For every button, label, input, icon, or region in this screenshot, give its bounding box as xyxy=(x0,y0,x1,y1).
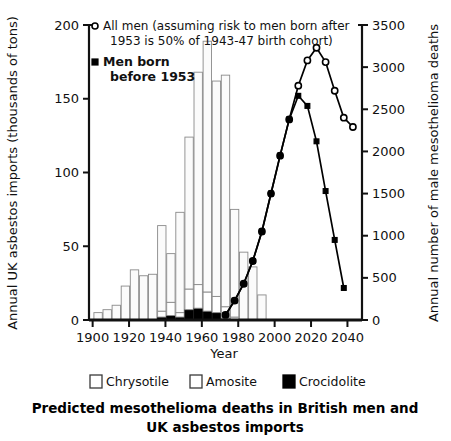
data-point-men-born-before-1953 xyxy=(241,281,246,286)
bar-segment-chrysotile xyxy=(149,274,157,320)
data-point-men-born-before-1953 xyxy=(314,139,319,144)
bar-segment-chrysotile xyxy=(212,81,220,296)
bar-legend: Chrysotile Amosite Crocidolite xyxy=(90,374,366,389)
bar-segment-chrysotile xyxy=(221,75,229,307)
data-point-men-born-before-1953 xyxy=(323,189,328,194)
data-point-men-born-before-1953 xyxy=(305,104,310,109)
legend-men-born-line2: before 1953 xyxy=(110,69,195,84)
figure-title-line1: Predicted mesothelioma deaths in British… xyxy=(32,400,419,416)
data-point-all-men xyxy=(350,124,356,130)
bar-segment-amosite xyxy=(203,292,211,311)
legend-crocidolite-swatch-icon xyxy=(283,375,295,388)
bar-segment-amosite xyxy=(158,311,166,317)
bar-segment-chrysotile xyxy=(176,212,184,312)
data-point-men-born-before-1953 xyxy=(287,117,292,122)
legend-filled-square-icon xyxy=(92,59,98,65)
data-point-men-born-before-1953 xyxy=(278,153,283,158)
bar-segment-amosite xyxy=(185,289,193,310)
figure-title-line2: UK asbestos imports xyxy=(146,419,303,435)
y-axis-left-title: Annual UK asbestos imports (thousands of… xyxy=(5,16,20,330)
data-point-men-born-before-1953 xyxy=(232,298,237,303)
data-point-men-born-before-1953 xyxy=(332,238,337,243)
x-axis-title: Year xyxy=(209,346,238,361)
x-axis-tick-label: 2020 xyxy=(294,330,327,345)
x-axis-tick-label: 1900 xyxy=(76,330,109,345)
y-axis-left-tick-label: 150 xyxy=(54,91,79,106)
data-point-men-born-before-1953 xyxy=(250,259,255,264)
y-axis-left-tick-label: 100 xyxy=(54,165,79,180)
data-point-all-men xyxy=(295,83,301,89)
legend-amosite-label: Amosite xyxy=(206,374,257,389)
x-axis-tick-label: 1980 xyxy=(222,330,255,345)
y-axis-right-title: Annual number of male mesothelioma death… xyxy=(426,24,441,322)
y-axis-right-tick-label: 0 xyxy=(372,313,380,328)
bar-segment-chrysotile xyxy=(194,72,202,284)
y-axis-right-tick-label: 3500 xyxy=(372,18,405,33)
legend-open-circle-icon xyxy=(92,23,98,29)
bar-segment-chrysotile xyxy=(158,226,166,312)
x-axis-tick-label: 1920 xyxy=(112,330,145,345)
x-axis-tick-label: 1940 xyxy=(149,330,182,345)
bar-segment-chrysotile xyxy=(121,286,129,320)
legend-chrysotile-label: Chrysotile xyxy=(106,374,169,389)
y-axis-right-tick-label: 1000 xyxy=(372,228,405,243)
bar-segment-crocidolite xyxy=(194,308,202,320)
x-axis-tick-label: 2000 xyxy=(258,330,291,345)
y-axis-right-tick-label: 3000 xyxy=(372,60,405,75)
data-point-men-born-before-1953 xyxy=(341,286,346,291)
y-axis-right-tick-label: 2500 xyxy=(372,102,405,117)
x-axis-tick-label: 2040 xyxy=(331,330,364,345)
legend-chrysotile-swatch-icon xyxy=(90,375,102,388)
data-point-men-born-before-1953 xyxy=(269,191,274,196)
data-point-all-men xyxy=(304,57,310,63)
legend-all-men-line1: All men (assuming risk to men born after xyxy=(103,19,350,33)
y-axis-right-tick-label: 500 xyxy=(372,270,397,285)
y-axis-left-tick-label: 50 xyxy=(62,239,79,254)
chart-svg: Annual UK asbestos imports (thousands of… xyxy=(0,0,451,441)
bar-segment-chrysotile xyxy=(112,305,120,320)
bar-segment-amosite xyxy=(176,313,184,317)
y-axis-right-tick-label: 2000 xyxy=(372,144,405,159)
legend-all-men-line2: 1953 is 50% of 1943-47 birth cohort) xyxy=(110,34,333,48)
y-axis-left-tick-label: 200 xyxy=(54,18,79,33)
chart-figure: Annual UK asbestos imports (thousands of… xyxy=(0,0,451,441)
bar-segment-chrysotile xyxy=(185,137,193,289)
bar-segment-chrysotile xyxy=(167,254,175,303)
data-point-all-men xyxy=(323,59,329,65)
bar-segment-chrysotile xyxy=(130,270,138,320)
data-point-all-men xyxy=(341,115,347,121)
bar-segment-chrysotile xyxy=(249,267,257,320)
bar-segment-amosite xyxy=(167,302,175,315)
bar-segment-chrysotile xyxy=(139,276,147,320)
data-point-men-born-before-1953 xyxy=(296,93,301,98)
x-axis-tick-label: 1960 xyxy=(185,330,218,345)
bar-segment-chrysotile xyxy=(258,295,266,320)
legend-men-born-line1: Men born xyxy=(103,54,170,69)
legend-crocidolite-label: Crocidolite xyxy=(299,374,366,389)
y-axis-left-tick-label: 0 xyxy=(71,313,79,328)
legend-amosite-swatch-icon xyxy=(190,375,202,388)
data-point-all-men xyxy=(332,88,338,94)
bar-segment-amosite xyxy=(194,285,202,309)
bar-segment-chrysotile xyxy=(203,41,211,292)
bar-segment-amosite xyxy=(212,296,220,312)
y-axis-right-tick-label: 1500 xyxy=(372,186,405,201)
data-point-men-born-before-1953 xyxy=(223,313,228,318)
data-point-men-born-before-1953 xyxy=(260,229,265,234)
